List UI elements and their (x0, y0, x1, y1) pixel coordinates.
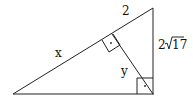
label-short-segment: 2 (122, 4, 130, 18)
svg-text:2: 2 (158, 38, 166, 52)
hypotenuse (13, 8, 153, 94)
label-vertical-leg: 2 17 (158, 37, 187, 52)
label-y: y (120, 64, 128, 78)
label-x: x (55, 46, 62, 60)
right-angle-dot-altitude (110, 42, 112, 44)
triangle-diagram: 2 x y 2 17 (0, 0, 193, 103)
svg-text:17: 17 (172, 38, 187, 52)
right-angle-dot-corner (144, 85, 146, 87)
